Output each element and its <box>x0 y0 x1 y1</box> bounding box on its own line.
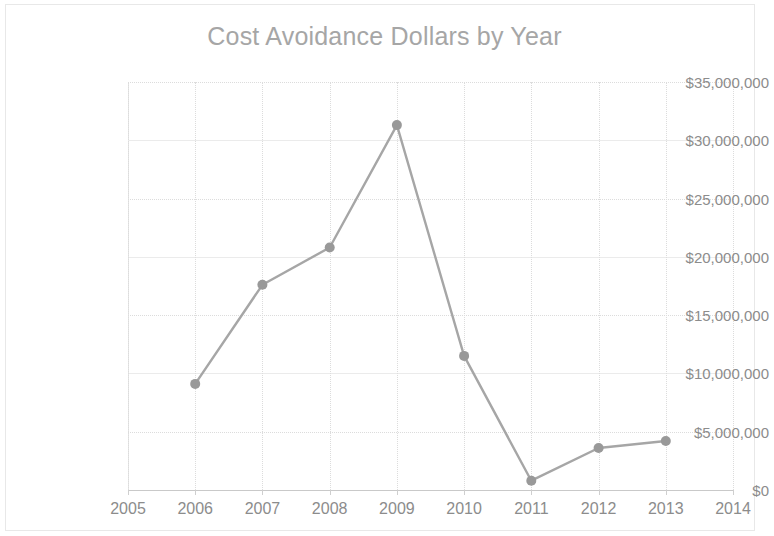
x-axis-tick-mark <box>262 490 263 495</box>
x-axis-tick-label: 2014 <box>688 500 774 518</box>
x-axis-tick-mark <box>330 490 331 495</box>
plot-area <box>128 82 733 490</box>
gridline-horizontal <box>128 257 733 258</box>
y-axis-tick-label: $5,000,000 <box>651 423 769 440</box>
gridline-horizontal <box>128 140 733 141</box>
x-axis-tick-mark <box>666 490 667 495</box>
gridline-vertical <box>397 82 398 490</box>
x-axis-tick-mark <box>733 490 734 495</box>
x-axis-tick-mark <box>397 490 398 495</box>
gridline-horizontal <box>128 373 733 374</box>
x-axis-tick-mark <box>464 490 465 495</box>
gridline-vertical <box>599 82 600 490</box>
x-axis-tick-mark <box>531 490 532 495</box>
y-axis-tick-label: $35,000,000 <box>651 74 769 91</box>
gridline-vertical <box>195 82 196 490</box>
gridline-horizontal <box>128 82 733 83</box>
y-axis-tick-label: $0 <box>651 482 769 499</box>
y-axis-tick-label: $15,000,000 <box>651 307 769 324</box>
y-axis-tick-label: $10,000,000 <box>651 365 769 382</box>
gridline-horizontal <box>128 199 733 200</box>
x-axis-line <box>128 490 733 491</box>
gridline-vertical <box>531 82 532 490</box>
x-axis-tick-mark <box>599 490 600 495</box>
gridline-vertical <box>464 82 465 490</box>
gridline-horizontal <box>128 315 733 316</box>
x-axis-tick-mark <box>128 490 129 495</box>
chart-title: Cost Avoidance Dollars by Year <box>0 22 769 51</box>
gridline-vertical <box>128 82 129 490</box>
gridline-horizontal <box>128 432 733 433</box>
y-axis-tick-label: $20,000,000 <box>651 248 769 265</box>
x-axis-tick-mark <box>195 490 196 495</box>
y-axis-tick-label: $25,000,000 <box>651 190 769 207</box>
gridline-vertical <box>330 82 331 490</box>
y-axis-tick-label: $30,000,000 <box>651 132 769 149</box>
gridline-vertical <box>262 82 263 490</box>
